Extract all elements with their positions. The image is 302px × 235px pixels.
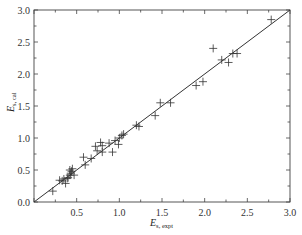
x-tick-label: 0.5 xyxy=(70,207,83,218)
plus-marker xyxy=(79,153,87,161)
plus-marker xyxy=(209,44,217,52)
data-points xyxy=(49,16,275,196)
plus-marker xyxy=(199,78,207,86)
y-tick-label: 1.0 xyxy=(18,133,31,144)
y-tick-label: 1.5 xyxy=(18,101,31,112)
y-tick-label: 2.0 xyxy=(18,69,31,80)
y-tick-label: 3.0 xyxy=(18,5,31,16)
x-tick-label: 3.0 xyxy=(284,207,297,218)
x-axis-label: Es, expt xyxy=(149,217,173,229)
plus-marker xyxy=(109,148,117,156)
x-tick-label: 1.5 xyxy=(156,207,169,218)
plus-marker xyxy=(49,187,57,195)
plus-marker xyxy=(225,58,233,66)
plus-marker xyxy=(233,50,241,58)
x-tick-label: 1.0 xyxy=(113,207,126,218)
plus-marker xyxy=(167,99,175,107)
x-tick-label: 2.5 xyxy=(241,207,254,218)
plus-marker xyxy=(91,142,99,150)
scatter-chart: 0.51.01.52.02.53.00.00.51.01.52.02.53.0 … xyxy=(0,0,302,235)
x-tick-label: 2.0 xyxy=(198,207,211,218)
y-tick-label: 0.5 xyxy=(18,165,31,176)
plus-marker xyxy=(114,140,122,148)
y-axis-label: Es, cal xyxy=(5,92,17,113)
plus-marker xyxy=(93,147,101,155)
y-tick-label: 2.5 xyxy=(18,37,31,48)
y-tick-label: 0.0 xyxy=(18,197,31,208)
